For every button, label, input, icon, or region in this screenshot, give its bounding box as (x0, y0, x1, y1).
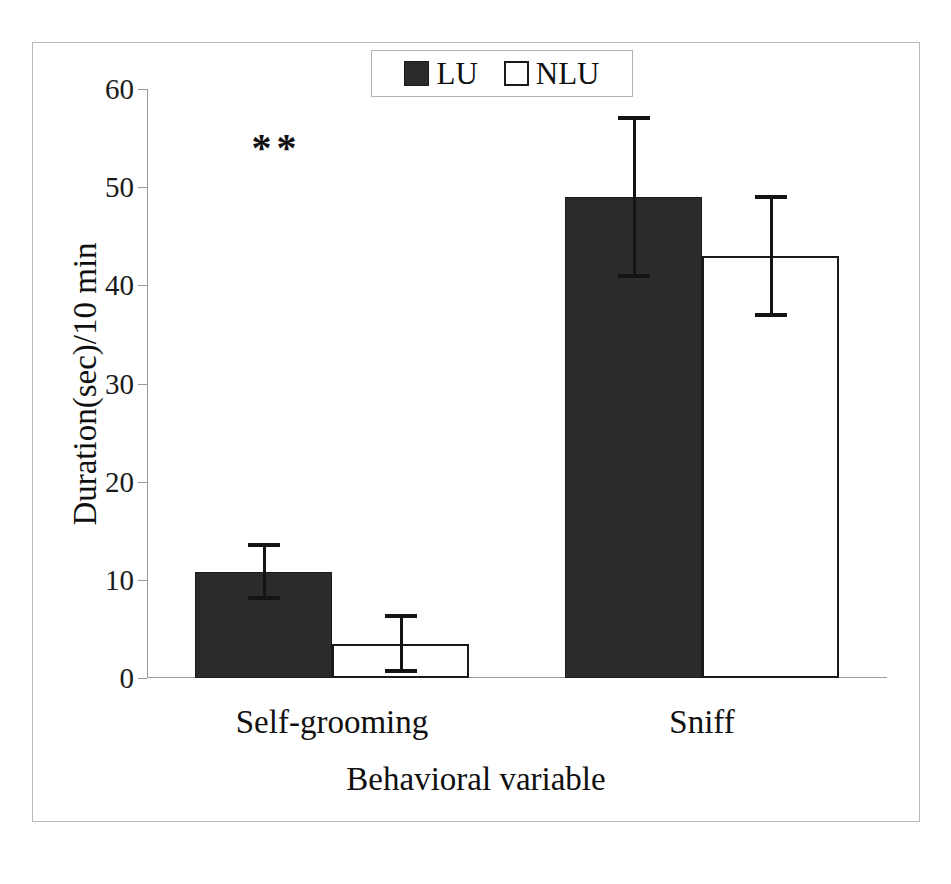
error-bar-cap-bottom (618, 274, 650, 278)
y-tick-label: 20 (105, 467, 134, 496)
plot-area: Duration(sec)/10 min 0102030405060 ** Se… (147, 89, 887, 678)
x-category-label-sniff: Sniff (669, 704, 734, 741)
y-tick-mark (138, 678, 147, 679)
y-tick-label: 30 (105, 369, 134, 398)
y-tick-mark (138, 187, 147, 188)
figure-frame: LU NLU Duration(sec)/10 min 010203040506… (32, 42, 920, 822)
y-tick-mark (138, 285, 147, 286)
y-axis-line (147, 89, 148, 678)
legend-entry-lu: LU (404, 58, 477, 89)
legend-label-nlu: NLU (536, 58, 600, 89)
y-tick-label: 0 (120, 664, 135, 693)
y-tick-mark (138, 482, 147, 483)
error-bar-cap-top (618, 116, 650, 120)
y-tick-label: 40 (105, 271, 134, 300)
legend-entry-nlu: NLU (504, 58, 600, 89)
error-bar-cap-top (755, 195, 787, 199)
y-tick-mark (138, 384, 147, 385)
error-bar-cap-bottom (755, 313, 787, 317)
significance-annotation: ** (252, 128, 302, 168)
error-bar-cap-bottom (248, 596, 280, 600)
error-bar-line (633, 118, 636, 275)
y-tick-mark (138, 89, 147, 90)
error-bar-line (770, 197, 773, 315)
y-tick-label: 50 (105, 173, 134, 202)
legend-label-lu: LU (436, 58, 477, 89)
y-tick-label: 10 (105, 565, 134, 594)
x-category-label-self-grooming: Self-grooming (236, 704, 428, 741)
y-axis-title: Duration(sec)/10 min (67, 242, 104, 525)
y-tick-label: 60 (105, 75, 134, 104)
error-bar-cap-top (248, 543, 280, 547)
y-tick-mark (138, 580, 147, 581)
x-axis-title: Behavioral variable (346, 761, 605, 798)
open-square-icon (504, 61, 529, 86)
error-bar-cap-bottom (385, 669, 417, 673)
error-bar-cap-top (385, 614, 417, 618)
error-bar-line (400, 616, 403, 671)
filled-square-icon (404, 61, 429, 86)
bar-nlu-sniff (702, 256, 839, 678)
error-bar-line (263, 545, 266, 598)
